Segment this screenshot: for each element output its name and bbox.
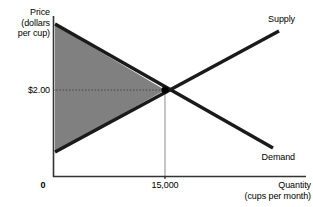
y-axis-title-line1: Price — [0, 7, 50, 18]
x-axis-title-line1: Quantity — [183, 180, 311, 191]
y-axis-tick-label-price: $2.00 — [14, 85, 50, 96]
total-surplus-shaded-region — [55, 25, 165, 152]
supply-curve-label: Supply — [221, 14, 295, 25]
x-axis-title-line2: (cups per month) — [183, 191, 311, 202]
y-axis-title: Price (dollars per cup) — [0, 7, 50, 39]
y-axis-title-line2: (dollars — [0, 18, 50, 29]
y-axis-title-line3: per cup) — [0, 28, 50, 39]
equilibrium-point-marker — [161, 86, 168, 93]
demand-curve-label: Demand — [221, 152, 295, 163]
axis-origin-label: 0 — [36, 180, 50, 191]
x-axis-title: Quantity (cups per month) — [183, 180, 311, 201]
supply-demand-chart: Price (dollars per cup) $2.00 0 15,000 Q… — [0, 0, 313, 207]
